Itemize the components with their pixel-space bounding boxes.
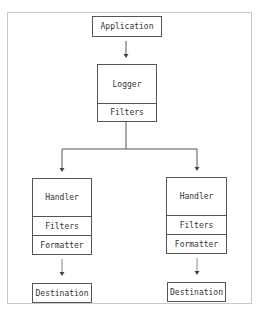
handler-1-formatter: Formatter bbox=[33, 235, 91, 254]
destination-node-2: Destination bbox=[167, 282, 226, 302]
logger-title: Logger bbox=[98, 65, 156, 103]
arrowhead-icon bbox=[195, 167, 200, 171]
handler-2-filters: Filters bbox=[167, 215, 226, 234]
arrowhead-icon bbox=[60, 168, 65, 172]
application-label: Application bbox=[93, 17, 161, 36]
handler-node-1: Handler Filters Formatter bbox=[32, 178, 92, 255]
destination-1-label: Destination bbox=[33, 284, 91, 302]
handler-1-title: Handler bbox=[33, 179, 91, 216]
destination-2-label: Destination bbox=[168, 283, 225, 301]
handler-2-title: Handler bbox=[167, 178, 226, 215]
connectors bbox=[0, 0, 259, 316]
handler-node-2: Handler Filters Formatter bbox=[166, 177, 227, 254]
arrowhead-icon bbox=[60, 272, 65, 276]
application-node: Application bbox=[92, 16, 162, 37]
logger-filters: Filters bbox=[98, 103, 156, 121]
handler-1-filters: Filters bbox=[33, 216, 91, 235]
logger-node: Logger Filters bbox=[97, 64, 157, 122]
destination-node-1: Destination bbox=[32, 283, 92, 303]
arrowhead-icon bbox=[195, 271, 200, 275]
arrowhead-icon bbox=[124, 54, 129, 58]
handler-2-formatter: Formatter bbox=[167, 234, 226, 253]
